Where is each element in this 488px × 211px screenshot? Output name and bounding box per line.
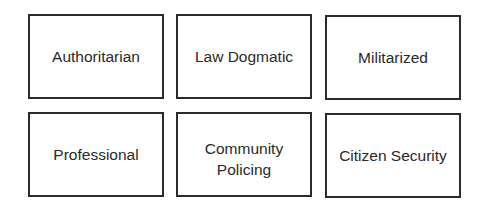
box-label: Law Dogmatic: [195, 46, 293, 67]
box-militarized: Militarized: [325, 15, 461, 100]
box-label: Citizen Security: [339, 145, 447, 166]
box-citizen-security: Citizen Security: [325, 113, 461, 198]
box-authoritarian: Authoritarian: [28, 14, 164, 99]
box-label: Professional: [53, 144, 138, 165]
box-law-dogmatic: Law Dogmatic: [176, 14, 312, 99]
box-professional: Professional: [28, 112, 164, 197]
box-label-line-2: Policing: [217, 159, 271, 180]
box-label: Authoritarian: [52, 46, 140, 67]
box-label-line-1: Community: [205, 138, 283, 159]
box-label: Militarized: [358, 47, 428, 68]
box-community-policing: Community Policing: [176, 112, 312, 197]
